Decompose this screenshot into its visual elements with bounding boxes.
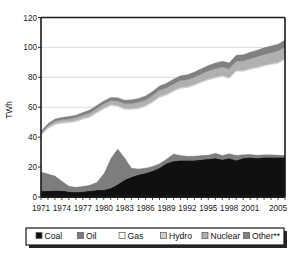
legend-label-gas: Gas: [128, 231, 144, 241]
y-tick-label: 60: [28, 103, 38, 112]
chart-legend: CoalOilGasHydroNuclearOther**: [26, 228, 287, 248]
y-tick-label: 40: [28, 133, 38, 142]
x-tick-label: 1989: [157, 204, 176, 213]
legend-swatch-other: [244, 233, 250, 239]
y-tick-label: 20: [28, 163, 38, 172]
legend-label-coal: Coal: [45, 231, 63, 241]
x-tick-label: 1998: [220, 204, 239, 213]
legend-label-hydro: Hydro: [169, 231, 192, 241]
x-tick-label: 1971: [32, 204, 51, 213]
x-tick-label: 1974: [53, 204, 72, 213]
y-tick-label: 120: [23, 14, 37, 23]
legend-swatch-coal: [36, 233, 42, 239]
x-axis-labels: 1971197419771980198319861989199219951998…: [32, 204, 288, 213]
legend-swatch-gas: [119, 233, 125, 239]
legend-swatch-nuclear: [202, 233, 208, 239]
legend-label-oil: Oil: [86, 231, 97, 241]
legend-label-nuclear: Nuclear: [211, 231, 241, 241]
y-tick-label: 100: [23, 43, 37, 52]
x-tick-label: 1995: [199, 204, 218, 213]
y-tick-label: 80: [28, 73, 38, 82]
x-tick-label: 2001: [241, 204, 260, 213]
energy-supply-area-chart: 020406080100120 197119741977198019831986…: [0, 0, 295, 259]
legend-swatch-oil: [78, 233, 84, 239]
x-tick-label: 2005: [269, 204, 288, 213]
x-tick-label: 1983: [116, 204, 135, 213]
stacked-area-group: [41, 40, 285, 197]
x-tick-label: 1992: [178, 204, 197, 213]
x-tick-label: 1986: [136, 204, 155, 213]
legend-swatch-hydro: [161, 233, 167, 239]
y-tick-label: 0: [32, 193, 37, 202]
x-tick-label: 1980: [95, 204, 114, 213]
x-tick-label: 1977: [74, 204, 93, 213]
chart-canvas: 020406080100120 197119741977198019831986…: [0, 0, 295, 259]
legend-label-other: Other**: [252, 231, 281, 241]
y-axis-title: TWh: [4, 101, 14, 119]
y-axis-labels: 020406080100120: [23, 14, 41, 203]
